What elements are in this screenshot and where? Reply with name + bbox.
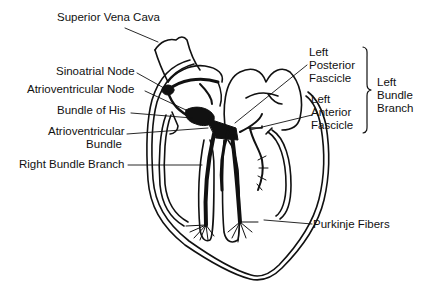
label-sinoatrial-node: Sinoatrial Node: [56, 65, 135, 78]
purkinje-fibers-left: [228, 222, 258, 242]
label-av-bundle-line2: Bundle: [48, 138, 124, 151]
label-left-anterior-fascicle: Left Anterior Fascicle: [311, 93, 353, 132]
label-lpf-line1: Left: [309, 46, 355, 59]
left-ventricle-wall: [266, 128, 291, 219]
label-atrioventricular-node: Atrioventricular Node: [27, 83, 134, 96]
label-lbb-line2: Bundle: [377, 89, 413, 102]
label-lbb-line1: Left: [377, 76, 413, 89]
label-lbb-line3: Branch: [377, 102, 413, 115]
label-av-bundle-line1: Atrioventricular: [48, 125, 124, 138]
left-anterior-fascicle: [240, 114, 263, 190]
label-bundle-of-his: Bundle of His: [57, 104, 125, 117]
label-atrioventricular-bundle: Atrioventricular Bundle: [48, 125, 124, 151]
label-laf-line3: Fascicle: [311, 119, 353, 132]
label-left-bundle-branch: Left Bundle Branch: [377, 76, 413, 115]
conduction-system: [162, 79, 268, 242]
label-laf-line2: Anterior: [311, 106, 353, 119]
label-lpf-line2: Posterior: [309, 59, 355, 72]
label-superior-vena-cava: Superior Vena Cava: [57, 11, 160, 24]
left-bundle-branch-brace: [363, 47, 371, 133]
label-left-posterior-fascicle: Left Posterior Fascicle: [309, 46, 355, 85]
label-purkinje-fibers: Purkinje Fibers: [313, 218, 390, 231]
right-ventricle-wall: [159, 112, 188, 226]
label-right-bundle-branch: Right Bundle Branch: [19, 158, 124, 171]
heart-conduction-diagram: Superior Vena Cava Sinoatrial Node Atrio…: [0, 0, 426, 290]
label-lpf-line3: Fascicle: [309, 72, 355, 85]
label-laf-line1: Left: [311, 93, 353, 106]
superior-vena-cava: [155, 37, 200, 82]
